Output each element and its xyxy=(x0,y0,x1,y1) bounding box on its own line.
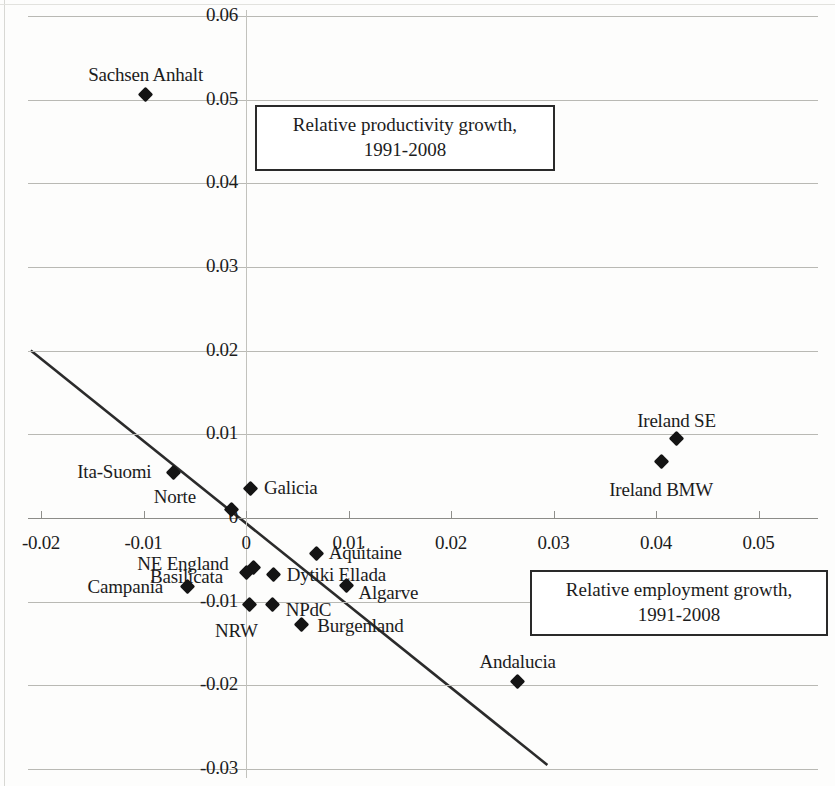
employment-axis-title-box: Relative employment growth, 1991-2008 xyxy=(530,570,828,636)
data-point-label: Galicia xyxy=(264,477,317,499)
data-point-label: Burgenland xyxy=(317,615,403,637)
data-point-label: Andalucia xyxy=(368,651,668,673)
data-point-label: Algarve xyxy=(358,582,418,604)
y-axis-tick-label: 0.04 xyxy=(126,171,238,193)
x-axis-tick-label: 0.05 xyxy=(699,532,819,554)
data-point-marker[interactable] xyxy=(242,481,258,497)
x-axis-tick xyxy=(349,511,350,518)
scatter-chart-page: 0.060.050.040.030.020.010-0.01-0.02-0.03… xyxy=(0,0,835,786)
y-axis-line xyxy=(246,10,247,778)
data-point-label: Sachsen Anhalt xyxy=(0,64,296,86)
data-point-marker[interactable] xyxy=(510,673,526,689)
data-point-label: NRW xyxy=(215,620,258,642)
data-point-label: Ireland BMW xyxy=(511,479,811,501)
y-axis-tick-label: 0 xyxy=(126,506,238,528)
employment-title-line1: Relative employment growth, xyxy=(542,577,816,602)
data-point-marker[interactable] xyxy=(266,567,282,583)
data-point-label: Ita-Suomi xyxy=(77,461,151,483)
productivity-axis-title-box: Relative productivity growth, 1991-2008 xyxy=(255,105,555,171)
x-axis-tick xyxy=(554,511,555,518)
x-axis-tick xyxy=(144,511,145,518)
data-point-marker[interactable] xyxy=(165,465,181,481)
data-point-label: Aquitaine xyxy=(329,542,402,564)
x-axis-tick xyxy=(246,511,247,518)
employment-title-line2: 1991-2008 xyxy=(542,602,816,627)
x-axis-tick xyxy=(451,511,452,518)
data-point-label: Norte xyxy=(154,486,196,508)
y-axis-tick-label: 0.03 xyxy=(126,255,238,277)
data-point-marker[interactable] xyxy=(653,453,669,469)
x-axis-tick xyxy=(759,511,760,518)
productivity-title-line1: Relative productivity growth, xyxy=(267,112,543,137)
y-axis-tick-label: -0.02 xyxy=(126,673,238,695)
productivity-title-line2: 1991-2008 xyxy=(267,137,543,162)
y-axis-tick-label: 0.06 xyxy=(126,4,238,26)
data-point-marker[interactable] xyxy=(265,596,281,612)
data-point-marker[interactable] xyxy=(241,596,257,612)
x-axis-tick xyxy=(656,511,657,518)
data-point-label: Campania xyxy=(88,576,163,598)
y-axis-tick-label: -0.03 xyxy=(126,757,238,779)
y-axis-tick-label: 0.01 xyxy=(126,422,238,444)
x-axis-tick xyxy=(41,511,42,518)
data-point-label: Ireland SE xyxy=(527,410,827,432)
y-axis-tick-label: 0.02 xyxy=(126,339,238,361)
